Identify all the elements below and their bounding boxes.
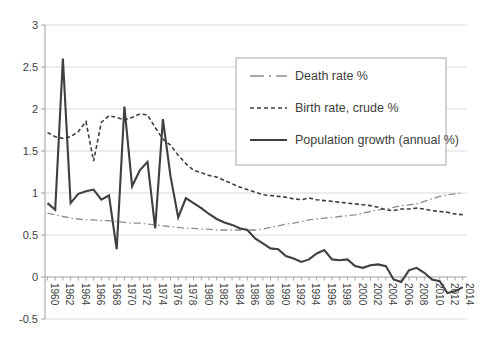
x-tick-label: 1962: [64, 283, 75, 306]
x-tick-label: 1972: [141, 283, 152, 306]
legend-label-population-growth: Population growth (annual %): [295, 133, 459, 147]
x-tick-label: 2004: [387, 283, 398, 306]
x-tick-label: 1996: [326, 283, 337, 306]
x-tick-label: 1960: [49, 283, 60, 306]
x-tick-label: 1968: [111, 283, 122, 306]
chart-canvas: 32.521.510.50-0.519601962196419661968197…: [0, 0, 490, 346]
x-tick-label: 1982: [218, 283, 229, 306]
x-tick-label: 1970: [126, 283, 137, 306]
x-tick-label: 2010: [434, 283, 445, 306]
y-tick-label: 2: [32, 103, 38, 115]
x-tick-label: 2000: [357, 283, 368, 306]
x-tick-label: 2008: [418, 283, 429, 306]
x-tick-label: 2014: [464, 283, 475, 306]
legend-label-death-rate: Death rate %: [295, 69, 368, 83]
x-tick-label: 1990: [280, 283, 291, 306]
y-tick-label: 0: [32, 271, 38, 283]
x-tick-label: 1988: [264, 283, 275, 306]
x-tick-label: 1986: [249, 283, 260, 306]
x-tick-label: 1998: [341, 283, 352, 306]
x-tick-label: 1974: [157, 283, 168, 306]
x-tick-label: 1994: [310, 283, 321, 306]
y-tick-label: 1.5: [23, 145, 38, 157]
y-tick-label: 2.5: [23, 61, 38, 73]
x-tick-label: 1964: [80, 283, 91, 306]
y-tick-label: 3: [32, 19, 38, 31]
legend: Death rate % Birth rate, crude % Populat…: [236, 58, 459, 165]
x-tick-label: 1992: [295, 283, 306, 306]
x-tick-label: 2002: [372, 283, 383, 306]
y-tick-label: 0.5: [23, 229, 38, 241]
x-tick-label: 1976: [172, 283, 183, 306]
x-tick-label: 1984: [234, 283, 245, 306]
x-tick-label: 1980: [203, 283, 214, 306]
x-tick-label: 1966: [95, 283, 106, 306]
legend-label-birth-rate: Birth rate, crude %: [295, 101, 399, 115]
y-tick-label: -0.5: [19, 313, 38, 325]
y-tick-label: 1: [32, 187, 38, 199]
x-tick-label: 1978: [187, 283, 198, 306]
x-tick-label: 2012: [449, 283, 460, 306]
chart-container: 32.521.510.50-0.519601962196419661968197…: [0, 0, 490, 346]
x-tick-label: 2006: [403, 283, 414, 306]
